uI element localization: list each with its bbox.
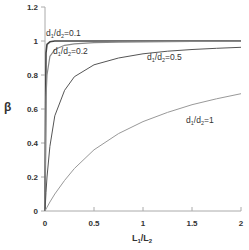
x-axis-title: L1/L2 — [132, 233, 153, 244]
y-axis-title: β — [4, 100, 11, 114]
y-tick-label: 0.4 — [27, 139, 39, 148]
beta-vs-length-ratio-chart: 00.20.40.60.811.2 00.511.52 β L1/L2 d1/d… — [0, 0, 249, 250]
curve-d1-d2-0.1 — [45, 41, 241, 211]
x-tick-label: 1.5 — [186, 219, 198, 228]
x-tick-label: 0.5 — [88, 219, 100, 228]
y-tick-label: 0.8 — [27, 71, 39, 80]
x-tick-label: 1 — [141, 219, 146, 228]
y-tick-label: 1 — [34, 37, 39, 46]
label-d1-d2-0.1: d1/d2=0.1 — [46, 28, 81, 39]
label-d1-d2-0.5: d1/d2=0.5 — [147, 52, 182, 63]
curve-d1-d2-0.5 — [45, 47, 241, 211]
y-tick-label: 0.6 — [27, 105, 39, 114]
x-tick-label: 2 — [239, 219, 244, 228]
curve-d1-d2-1 — [45, 94, 241, 211]
label-d1-d2-1: d1/d2=1 — [186, 115, 214, 126]
x-tick-label: 0 — [43, 219, 48, 228]
y-tick-label: 1.2 — [27, 3, 39, 12]
x-axis: 00.511.52 — [43, 207, 244, 228]
curves — [45, 41, 241, 211]
y-tick-label: 0 — [34, 207, 39, 216]
y-axis: 00.20.40.60.811.2 — [27, 3, 45, 216]
curve-d1-d2-0.2 — [45, 41, 241, 211]
y-tick-label: 0.2 — [27, 173, 39, 182]
